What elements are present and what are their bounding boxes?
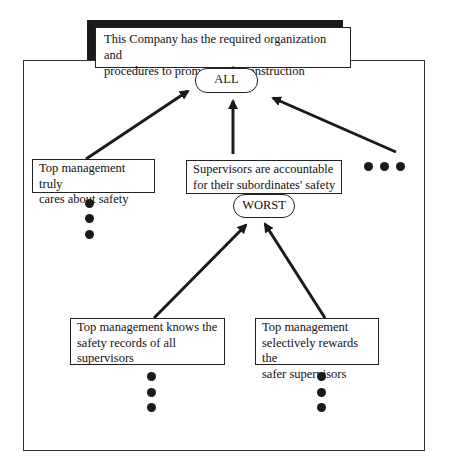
goal-title-box: This Company has the required organizati… [95, 27, 351, 68]
ellipsis-dot-icon [147, 372, 156, 381]
node-supervisors-accountable: Supervisors are accountable for their su… [186, 160, 342, 194]
ellipsis-dot-icon [147, 388, 156, 397]
ellipsis-dot-icon [85, 199, 94, 208]
node-top-management-cares: Top management truly cares about safety [32, 159, 155, 193]
ellipsis-dot-icon [317, 403, 326, 412]
node-all-label: ALL [214, 72, 238, 86]
ellipsis-dot-icon [85, 230, 94, 239]
node-top-management-rewards: Top management selectively rewards the s… [255, 318, 379, 365]
ellipsis-dot-icon [396, 162, 405, 171]
node-text-line: Supervisors are accountable [193, 162, 337, 178]
node-text-line: selectively rewards the [262, 336, 374, 367]
node-worst: WORST [233, 194, 295, 218]
title-line-1: This Company has the required organizati… [104, 31, 344, 63]
node-all: ALL [195, 68, 258, 93]
node-text-line: safety records of all [77, 336, 220, 352]
node-text-line: Top management truly [39, 161, 150, 192]
ellipsis-dot-icon [147, 403, 156, 412]
ellipsis-dot-icon [380, 162, 389, 171]
node-text-line: supervisors [77, 351, 220, 367]
node-worst-label: WORST [242, 198, 286, 212]
diagram-frame [23, 60, 425, 451]
ellipsis-dot-icon [317, 388, 326, 397]
node-text-line: for their subordinates' safety [193, 178, 337, 194]
node-text-line: Top management knows the [77, 320, 220, 336]
node-top-management-knows: Top management knows the safety records … [70, 318, 225, 365]
ellipsis-dot-icon [364, 162, 373, 171]
ellipsis-dot-icon [85, 214, 94, 223]
node-text-line: Top management [262, 320, 374, 336]
ellipsis-dot-icon [317, 372, 326, 381]
node-text-line: cares about safety [39, 192, 150, 208]
